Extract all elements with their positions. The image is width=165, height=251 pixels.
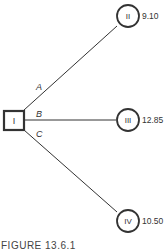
outcome-node-ii-label: II: [126, 12, 130, 21]
branch-label-b: B: [36, 109, 42, 119]
decision-node-label: I: [13, 116, 16, 126]
branch-label-c: C: [36, 129, 43, 139]
branch-label-a: A: [35, 82, 42, 92]
branch-line-a: [24, 26, 117, 110]
outcome-value-iii: 12.85: [142, 115, 164, 125]
outcome-node-iii-label: III: [125, 116, 132, 125]
outcome-value-ii: 9.10: [142, 11, 159, 21]
outcome-node-iv-label: IV: [124, 217, 132, 226]
branch-line-c: [24, 130, 117, 212]
outcome-value-iv: 10.50: [142, 216, 164, 226]
figure-caption: FIGURE 13.6.1: [1, 240, 76, 251]
